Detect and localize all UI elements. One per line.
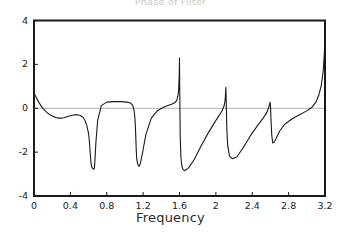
chart-figure: Phase of Filter Frequency 420-2-4 00.40.… [0, 0, 341, 242]
x-tick-label: 3.2 [310, 200, 340, 211]
x-tick-label: 0 [19, 200, 49, 211]
x-tick-label: 0.8 [92, 200, 122, 211]
x-tick-label: 1.6 [165, 200, 195, 211]
x-tick-label: 1.2 [128, 200, 158, 211]
y-tick-label: -2 [6, 146, 28, 157]
x-tick-label: 2.8 [274, 200, 304, 211]
y-tick-label: 0 [6, 102, 28, 113]
x-tick-label: 0.4 [55, 200, 85, 211]
data-line-phase [34, 40, 325, 170]
x-tick-label: 2 [201, 200, 231, 211]
x-axis-label: Frequency [0, 210, 341, 225]
x-tick-label: 2.4 [237, 200, 267, 211]
y-tick-label: 2 [6, 58, 28, 69]
y-tick-label: 4 [6, 15, 28, 26]
